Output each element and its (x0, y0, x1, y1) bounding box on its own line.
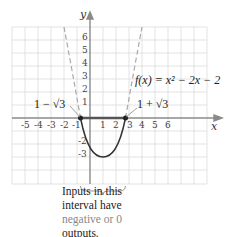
x-tick: 2 (113, 120, 119, 130)
x-axis-label: x (211, 120, 217, 133)
y-tick: 6 (82, 32, 88, 42)
y-tick: 1 (82, 97, 88, 107)
note-line: outputs. (62, 226, 122, 237)
x-tick: -4 (34, 120, 43, 130)
right-root-label: 1 + √3 (137, 97, 168, 112)
x-tick: -3 (47, 120, 56, 130)
function-label: f(x) = x² − 2x − 2 (135, 73, 220, 88)
y-tick: 2 (82, 84, 88, 94)
y-tick: 3 (82, 71, 88, 81)
note-line: interval have (62, 198, 122, 212)
x-tick: 5 (152, 120, 158, 130)
note-line: Inputs in this (62, 184, 122, 198)
x-tick: -1 (72, 120, 81, 130)
y-axis-arrow-icon (87, 12, 93, 19)
x-tick: 6 (165, 120, 171, 130)
y-axis-label: y (80, 8, 86, 21)
x-tick: -2 (60, 120, 69, 130)
right-root-leader (126, 108, 137, 117)
note-line: negative or 0 (62, 212, 122, 226)
x-tick: 3 (127, 120, 133, 130)
x-tick: -5 (21, 120, 30, 130)
interval-annotation: Inputs in this interval have negative or… (62, 184, 122, 237)
x-tick: 4 (139, 120, 145, 130)
left-root-label: 1 − √3 (34, 97, 65, 112)
y-tick: -2 (78, 136, 87, 146)
curve-dashed-left (64, 27, 81, 118)
y-tick: 4 (82, 58, 88, 68)
x-tick: 1 (100, 120, 106, 130)
y-tick: -3 (78, 149, 87, 159)
y-tick: 5 (82, 45, 88, 55)
